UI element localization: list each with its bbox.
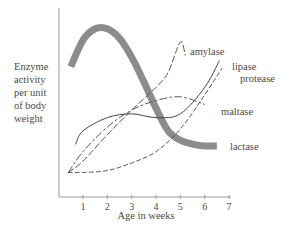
x-tick-label: 5 <box>178 201 183 212</box>
label-amylase: amylase <box>190 46 225 57</box>
label-lactase: lactase <box>230 141 259 152</box>
x-tick-label: 2 <box>105 201 110 212</box>
label-protease: protease <box>240 73 275 84</box>
y-axis-label: Enzyme activity per unit of body weight <box>14 61 51 124</box>
label-lipase: lipase <box>232 61 257 72</box>
x-tick-label: 1 <box>81 201 86 212</box>
series-amylase <box>68 42 185 173</box>
label-maltase: maltase <box>221 106 253 117</box>
x-tick-label: 7 <box>227 201 232 212</box>
enzyme-activity-chart: 1234567 Enzyme activity per unit of body… <box>0 0 291 238</box>
series-lipase <box>76 61 220 144</box>
x-tick-label: 6 <box>202 201 207 212</box>
x-axis-label: Age in weeks <box>117 210 174 221</box>
